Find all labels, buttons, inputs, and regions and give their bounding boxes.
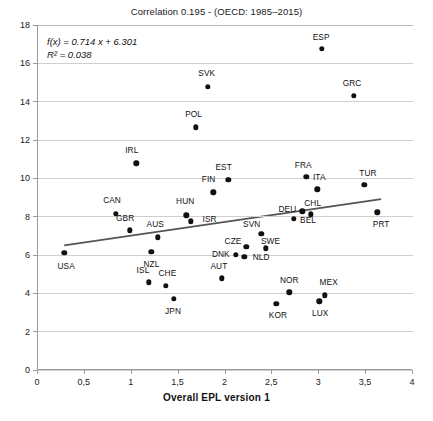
data-point-label-tur: TUR: [359, 168, 376, 178]
gridline-y-12: [38, 140, 413, 141]
x-tick-label: 1: [111, 377, 151, 387]
gridline-y-18: [38, 25, 413, 26]
data-point-label-jpn: JPN: [165, 306, 181, 316]
gridline-y-4: [38, 293, 413, 294]
data-point-label-svn: SVN: [243, 219, 260, 229]
data-point-label-fra: FRA: [295, 160, 312, 170]
data-point-label-cze: CZE: [225, 236, 242, 246]
y-tick-mark: [33, 63, 37, 64]
data-point-label-isr: ISR: [202, 214, 216, 224]
data-point-label-isl: ISL: [137, 265, 150, 275]
data-point-label-can: CAN: [103, 195, 121, 205]
y-tick-mark: [33, 331, 37, 332]
gridline-y-8: [38, 216, 413, 217]
data-point-label-lux: LUX: [312, 308, 328, 318]
x-tick-label: 0: [17, 377, 57, 387]
y-tick-label: 16: [0, 58, 30, 68]
data-point-label-aut: AUT: [210, 261, 227, 271]
x-tick-label: 3: [298, 377, 338, 387]
y-tick-mark: [33, 216, 37, 217]
y-tick-label: 14: [0, 97, 30, 107]
data-point-label-chl: CHL: [304, 198, 321, 208]
y-tick-mark: [33, 293, 37, 294]
data-point-label-hun: HUN: [176, 196, 194, 206]
x-tick-label: 4: [392, 377, 432, 387]
y-tick-label: 8: [0, 212, 30, 222]
data-point-label-pol: POL: [185, 109, 202, 119]
data-point-label-aus: AUS: [147, 219, 164, 229]
x-tick-mark: [225, 370, 226, 374]
y-tick-mark: [33, 25, 37, 26]
data-point-label-grc: GRC: [343, 78, 362, 88]
data-point-label-svk: SVK: [198, 68, 215, 78]
x-tick-mark: [131, 370, 132, 374]
x-tick-mark: [318, 370, 319, 374]
data-point-label-deu: DEU: [278, 204, 296, 214]
plot-area: USACANGBRAUSNZLISLCHEJPNIRLHUNISRPOLSVKF…: [37, 25, 412, 370]
x-tick-label: 2: [205, 377, 245, 387]
x-axis-title: Overall EPL version 1: [0, 392, 433, 403]
gridline-y-16: [38, 63, 413, 64]
data-point-label-ita: ITA: [313, 172, 326, 182]
data-point-label-prt: PRT: [373, 219, 390, 229]
data-point-label-gbr: GBR: [116, 213, 134, 223]
y-tick-label: 12: [0, 135, 30, 145]
data-point-label-dnk: DNK: [212, 249, 230, 259]
x-tick-label: 1,5: [158, 377, 198, 387]
data-point-label-irl: IRL: [125, 145, 138, 155]
gridline-y-14: [38, 101, 413, 102]
data-point-label-che: CHE: [158, 268, 176, 278]
data-point-label-mex: MEX: [319, 277, 337, 287]
y-tick-label: 4: [0, 288, 30, 298]
x-tick-mark: [412, 370, 413, 374]
data-point-label-bel: BEL: [300, 215, 316, 225]
y-tick-label: 0: [0, 365, 30, 375]
x-tick-mark: [178, 370, 179, 374]
data-point-label-est: EST: [215, 162, 231, 172]
y-tick-label: 10: [0, 173, 30, 183]
y-tick-label: 18: [0, 20, 30, 30]
x-tick-label: 3,5: [345, 377, 385, 387]
chart-title: Correlation 0.195 - (OECD: 1985–2015): [0, 6, 433, 17]
scatter-chart: Correlation 0.195 - (OECD: 1985–2015) f(…: [0, 0, 433, 421]
y-tick-mark: [33, 140, 37, 141]
data-point-label-swe: SWE: [261, 236, 280, 246]
x-tick-mark: [37, 370, 38, 374]
x-tick-mark: [271, 370, 272, 374]
gridline-y-0: [38, 370, 413, 371]
y-tick-mark: [33, 101, 37, 102]
gridline-y-2: [38, 331, 413, 332]
y-tick-label: 2: [0, 327, 30, 337]
data-point-label-fin: FIN: [202, 174, 216, 184]
data-point-label-nor: NOR: [280, 275, 299, 285]
x-tick-mark: [84, 370, 85, 374]
x-tick-label: 2,5: [251, 377, 291, 387]
y-tick-mark: [33, 255, 37, 256]
y-tick-label: 6: [0, 250, 30, 260]
x-tick-mark: [365, 370, 366, 374]
data-point-label-usa: USA: [57, 261, 74, 271]
x-tick-label: 0,5: [64, 377, 104, 387]
data-point-label-nld: NLD: [253, 252, 270, 262]
y-tick-mark: [33, 178, 37, 179]
data-point-label-kor: KOR: [269, 310, 287, 320]
data-point-label-esp: ESP: [313, 32, 330, 42]
